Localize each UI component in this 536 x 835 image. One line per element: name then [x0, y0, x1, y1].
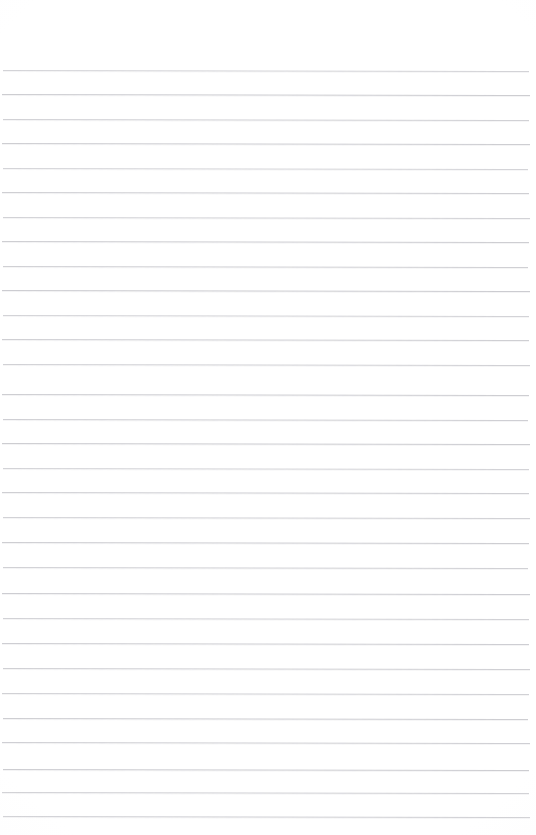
ruled-lines-layer — [0, 0, 536, 835]
rule-line — [3, 816, 530, 818]
rule-line — [3, 119, 529, 121]
rule-line — [3, 618, 529, 620]
rule-line — [3, 168, 528, 170]
rule-line — [2, 443, 530, 445]
rule-line — [3, 266, 528, 268]
rule-line — [3, 567, 528, 569]
rule-line — [2, 542, 529, 544]
rule-line — [3, 668, 530, 670]
rule-line — [3, 517, 530, 519]
rule-line — [2, 643, 529, 645]
rule-line — [2, 492, 529, 494]
rule-line — [2, 192, 529, 194]
rule-line — [2, 394, 529, 396]
rule-line — [3, 769, 529, 771]
rule-line — [3, 315, 529, 317]
rule-line — [3, 718, 528, 720]
rule-line — [3, 468, 529, 470]
rule-line — [2, 241, 529, 243]
rule-line — [2, 290, 530, 292]
rule-line — [3, 419, 528, 421]
rule-line — [2, 94, 530, 96]
rule-line — [3, 217, 530, 219]
rule-line — [2, 792, 529, 794]
scanned-page — [0, 0, 536, 835]
rule-line — [2, 693, 529, 695]
rule-line — [2, 143, 530, 145]
rule-line — [3, 364, 530, 366]
rule-line — [2, 742, 530, 744]
rule-line — [3, 70, 529, 72]
rule-line — [2, 339, 529, 341]
rule-line — [2, 593, 530, 595]
